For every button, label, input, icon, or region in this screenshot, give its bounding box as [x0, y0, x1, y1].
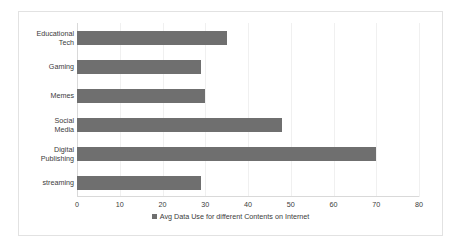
category-label: Memes: [20, 91, 74, 100]
bar-row: [77, 23, 419, 52]
legend-label: Avg Data Use for different Contents on I…: [160, 212, 310, 221]
value-tick-label: 10: [116, 200, 124, 209]
bar-row: [77, 110, 419, 139]
value-tick-label: 50: [287, 200, 295, 209]
bar-row: [77, 52, 419, 81]
legend-swatch-icon: [152, 214, 157, 219]
bar[interactable]: [77, 176, 201, 190]
bar-row: [77, 139, 419, 168]
category-label: Gaming: [20, 62, 74, 71]
value-tick-label: 30: [201, 200, 209, 209]
value-axis: 01020304050607080: [77, 198, 419, 212]
chart-frame: Educational TechGamingMemesSocial MediaD…: [18, 11, 443, 236]
category-label: Educational Tech: [20, 29, 74, 47]
bar[interactable]: [77, 118, 282, 132]
value-tick-label: 40: [244, 200, 252, 209]
value-tick-label: 70: [372, 200, 380, 209]
category-label: Social Media: [20, 116, 74, 134]
bar[interactable]: [77, 31, 227, 45]
category-label: Digital Publishing: [20, 145, 74, 163]
bar-row: [77, 81, 419, 110]
category-axis: Educational TechGamingMemesSocial MediaD…: [19, 23, 74, 197]
bar-row: [77, 168, 419, 197]
value-tick-label: 0: [75, 200, 79, 209]
plot-area: [77, 23, 419, 197]
value-tick-label: 20: [159, 200, 167, 209]
chart-legend: Avg Data Use for different Contents on I…: [19, 212, 442, 221]
category-label: streaming: [20, 178, 74, 187]
value-tick-label: 60: [330, 200, 338, 209]
value-tick-label: 80: [415, 200, 423, 209]
gridline: [419, 23, 420, 197]
bar[interactable]: [77, 89, 205, 103]
bar[interactable]: [77, 147, 376, 161]
bar[interactable]: [77, 60, 201, 74]
